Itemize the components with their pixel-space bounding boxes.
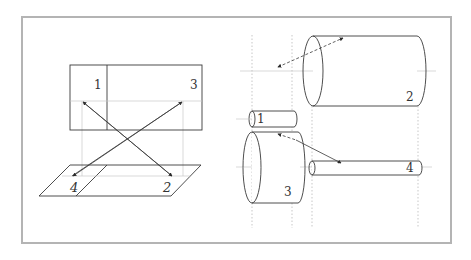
- diagram-canvas: 1 3 4 2: [0, 0, 471, 260]
- label-cyl-3: 3: [284, 185, 292, 199]
- label-rect-1: 1: [94, 78, 102, 92]
- label-cyl-1: 1: [257, 112, 265, 126]
- label-cyl-4: 4: [406, 161, 414, 175]
- label-rect-3: 3: [190, 78, 198, 92]
- label-para-2: 2: [162, 180, 171, 195]
- cylinder-3: [243, 132, 305, 203]
- label-cyl-2: 2: [406, 90, 414, 104]
- label-para-4: 4: [69, 180, 78, 195]
